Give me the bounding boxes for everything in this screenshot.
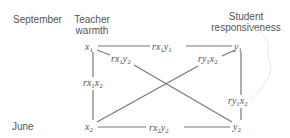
node-x1: x1 (84, 41, 93, 54)
edge-label-rx1y1: rx1y1 (152, 41, 172, 54)
node-y2: y2 (232, 121, 241, 134)
edge-x1-y2-start (97, 50, 110, 55)
edge-label-ry1x2-vertical: ry1x2 (228, 95, 248, 108)
edge-label-rx1y2: rx1y2 (111, 53, 131, 66)
edge-label-ry1x2-diagonal: ry1x2 (198, 53, 218, 66)
cross-lagged-panel-diagram: x1 y1 x2 y2 rx1y1 rx1y2 ry1x2 rx1x2 ry1x… (0, 0, 290, 138)
faint-curve-artifact (250, 28, 271, 100)
node-x2: x2 (84, 121, 93, 134)
edge-label-rx1x2: rx1x2 (83, 77, 103, 90)
edge-label-rx2y2: rx2y2 (149, 122, 169, 135)
node-y1: y1 (233, 41, 242, 54)
